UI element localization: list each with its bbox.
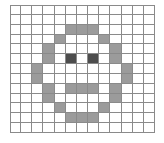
- pixel-empty-r12-c2[interactable]: [32, 123, 43, 133]
- pixel-empty-r4-c8[interactable]: [99, 44, 110, 54]
- pixel-empty-r0-c4[interactable]: [55, 5, 66, 15]
- pixel-empty-r11-c11[interactable]: [133, 113, 144, 123]
- pixel-empty-r7-c9[interactable]: [110, 74, 121, 84]
- pixel-empty-r2-c10[interactable]: [122, 25, 133, 35]
- pixel-empty-r9-c5[interactable]: [66, 94, 77, 104]
- pixel-empty-r2-c12[interactable]: [144, 25, 155, 35]
- pixel-empty-r3-c9[interactable]: [110, 35, 121, 45]
- pixel-empty-r12-c11[interactable]: [133, 123, 144, 133]
- pixel-empty-r6-c11[interactable]: [133, 64, 144, 74]
- pixel-empty-r10-c1[interactable]: [21, 103, 32, 113]
- pixel-empty-r5-c2[interactable]: [32, 54, 43, 64]
- pixel-empty-r5-c6[interactable]: [77, 54, 88, 64]
- pixel-gray-r7-c2[interactable]: [32, 74, 43, 84]
- pixel-empty-r0-c7[interactable]: [88, 5, 99, 15]
- pixel-empty-r8-c12[interactable]: [144, 84, 155, 94]
- pixel-empty-r4-c4[interactable]: [55, 44, 66, 54]
- pixel-empty-r3-c2[interactable]: [32, 35, 43, 45]
- pixel-empty-r2-c8[interactable]: [99, 25, 110, 35]
- pixel-gray-r2-c5[interactable]: [66, 25, 77, 35]
- pixel-empty-r1-c10[interactable]: [122, 15, 133, 25]
- pixel-empty-r11-c4[interactable]: [55, 113, 66, 123]
- pixel-empty-r4-c7[interactable]: [88, 44, 99, 54]
- pixel-empty-r10-c11[interactable]: [133, 103, 144, 113]
- pixel-empty-r12-c10[interactable]: [122, 123, 133, 133]
- pixel-gray-r5-c3[interactable]: [43, 54, 54, 64]
- pixel-empty-r10-c5[interactable]: [66, 103, 77, 113]
- pixel-gray-r2-c6[interactable]: [77, 25, 88, 35]
- pixel-empty-r7-c12[interactable]: [144, 74, 155, 84]
- pixel-gray-r8-c6[interactable]: [77, 84, 88, 94]
- pixel-empty-r6-c0[interactable]: [10, 64, 21, 74]
- pixel-empty-r7-c6[interactable]: [77, 74, 88, 84]
- pixel-empty-r6-c4[interactable]: [55, 64, 66, 74]
- pixel-empty-r5-c11[interactable]: [133, 54, 144, 64]
- pixel-empty-r8-c0[interactable]: [10, 84, 21, 94]
- pixel-empty-r11-c2[interactable]: [32, 113, 43, 123]
- pixel-empty-r1-c2[interactable]: [32, 15, 43, 25]
- pixel-dark-r5-c5[interactable]: [66, 54, 77, 64]
- pixel-empty-r7-c5[interactable]: [66, 74, 77, 84]
- pixel-empty-r1-c1[interactable]: [21, 15, 32, 25]
- pixel-empty-r4-c2[interactable]: [32, 44, 43, 54]
- pixel-empty-r7-c0[interactable]: [10, 74, 21, 84]
- pixel-empty-r4-c5[interactable]: [66, 44, 77, 54]
- pixel-gray-r7-c10[interactable]: [122, 74, 133, 84]
- pixel-empty-r9-c1[interactable]: [21, 94, 32, 104]
- pixel-empty-r3-c12[interactable]: [144, 35, 155, 45]
- pixel-empty-r4-c11[interactable]: [133, 44, 144, 54]
- pixel-empty-r1-c9[interactable]: [110, 15, 121, 25]
- pixel-empty-r4-c1[interactable]: [21, 44, 32, 54]
- pixel-empty-r3-c10[interactable]: [122, 35, 133, 45]
- pixel-gray-r11-c7[interactable]: [88, 113, 99, 123]
- pixel-empty-r1-c6[interactable]: [77, 15, 88, 25]
- pixel-empty-r11-c0[interactable]: [10, 113, 21, 123]
- pixel-empty-r4-c0[interactable]: [10, 44, 21, 54]
- pixel-empty-r2-c0[interactable]: [10, 25, 21, 35]
- pixel-empty-r2-c11[interactable]: [133, 25, 144, 35]
- pixel-empty-r5-c1[interactable]: [21, 54, 32, 64]
- pixel-gray-r11-c5[interactable]: [66, 113, 77, 123]
- pixel-empty-r3-c0[interactable]: [10, 35, 21, 45]
- pixel-empty-r7-c8[interactable]: [99, 74, 110, 84]
- pixel-empty-r1-c3[interactable]: [43, 15, 54, 25]
- pixel-empty-r9-c2[interactable]: [32, 94, 43, 104]
- pixel-empty-r9-c7[interactable]: [88, 94, 99, 104]
- pixel-gray-r3-c8[interactable]: [99, 35, 110, 45]
- pixel-empty-r6-c7[interactable]: [88, 64, 99, 74]
- pixel-gray-r4-c3[interactable]: [43, 44, 54, 54]
- pixel-empty-r8-c8[interactable]: [99, 84, 110, 94]
- pixel-gray-r6-c2[interactable]: [32, 64, 43, 74]
- pixel-empty-r2-c3[interactable]: [43, 25, 54, 35]
- pixel-empty-r11-c8[interactable]: [99, 113, 110, 123]
- pixel-empty-r1-c8[interactable]: [99, 15, 110, 25]
- pixel-empty-r9-c11[interactable]: [133, 94, 144, 104]
- pixel-empty-r3-c3[interactable]: [43, 35, 54, 45]
- pixel-empty-r6-c8[interactable]: [99, 64, 110, 74]
- pixel-empty-r0-c0[interactable]: [10, 5, 21, 15]
- pixel-empty-r0-c2[interactable]: [32, 5, 43, 15]
- pixel-empty-r5-c0[interactable]: [10, 54, 21, 64]
- pixel-empty-r11-c10[interactable]: [122, 113, 133, 123]
- pixel-empty-r1-c5[interactable]: [66, 15, 77, 25]
- pixel-empty-r8-c11[interactable]: [133, 84, 144, 94]
- pixel-empty-r12-c9[interactable]: [110, 123, 121, 133]
- pixel-empty-r12-c8[interactable]: [99, 123, 110, 133]
- pixel-empty-r10-c12[interactable]: [144, 103, 155, 113]
- pixel-empty-r8-c10[interactable]: [122, 84, 133, 94]
- pixel-empty-r8-c4[interactable]: [55, 84, 66, 94]
- pixel-gray-r6-c10[interactable]: [122, 64, 133, 74]
- pixel-empty-r12-c6[interactable]: [77, 123, 88, 133]
- pixel-empty-r7-c7[interactable]: [88, 74, 99, 84]
- pixel-gray-r10-c8[interactable]: [99, 103, 110, 113]
- pixel-empty-r12-c3[interactable]: [43, 123, 54, 133]
- pixel-empty-r1-c4[interactable]: [55, 15, 66, 25]
- pixel-empty-r0-c11[interactable]: [133, 5, 144, 15]
- pixel-empty-r2-c9[interactable]: [110, 25, 121, 35]
- pixel-empty-r2-c1[interactable]: [21, 25, 32, 35]
- pixel-empty-r11-c1[interactable]: [21, 113, 32, 123]
- pixel-empty-r6-c6[interactable]: [77, 64, 88, 74]
- pixel-gray-r3-c4[interactable]: [55, 35, 66, 45]
- pixel-empty-r9-c12[interactable]: [144, 94, 155, 104]
- pixel-empty-r10-c0[interactable]: [10, 103, 21, 113]
